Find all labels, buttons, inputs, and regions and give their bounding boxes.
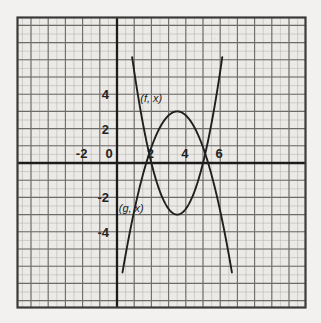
- y-tick-label-4: 4: [102, 87, 110, 102]
- y-tick-label-neg2: -2: [97, 190, 109, 205]
- y-tick-label-neg4: -4: [97, 225, 109, 240]
- annotation-fx: (f, x): [140, 92, 162, 104]
- x-tick-label-0: 0: [105, 146, 112, 161]
- graph-figure: -20246-4-224(f, x)(g, x): [0, 0, 321, 323]
- y-tick-label-2: 2: [102, 122, 109, 137]
- x-tick-label-6: 6: [216, 146, 223, 161]
- plot-area: -20246-4-224(f, x)(g, x): [18, 18, 306, 308]
- x-tick-label-4: 4: [181, 146, 189, 161]
- figure-canvas: -20246-4-224(f, x)(g, x): [0, 0, 321, 323]
- x-tick-label--2: -2: [76, 146, 88, 161]
- annotation-gx: (g, x): [119, 202, 144, 214]
